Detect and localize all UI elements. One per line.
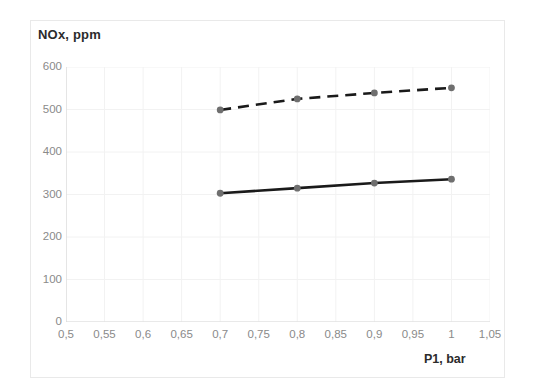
data-point-marker [371, 90, 378, 97]
x-tick-label: 1,05 [479, 328, 501, 340]
data-point-marker [448, 176, 455, 183]
x-tick-label: 0,55 [93, 328, 115, 340]
x-tick-label: 0,95 [402, 328, 424, 340]
x-tick-label: 0,7 [212, 328, 228, 340]
x-tick-label: 0,5 [58, 328, 74, 340]
x-axis-tick-labels: 0,50,550,60,650,70,750,80,850,90,9511,05 [0, 328, 538, 348]
x-tick-label: 0,9 [366, 328, 382, 340]
plot-area [66, 67, 490, 322]
x-tick-label: 0,8 [289, 328, 305, 340]
chart-container: NOx, ppm 6005004003002001000 0,50,550,60… [0, 0, 538, 392]
data-point-marker [217, 190, 224, 197]
y-tick-label: 300 [28, 189, 62, 200]
x-tick-label: 1 [448, 328, 454, 340]
y-tick-label: 600 [28, 61, 62, 72]
grid-lines [66, 67, 490, 322]
data-point-marker [448, 84, 455, 91]
data-point-marker [371, 180, 378, 187]
y-tick-label: 0 [28, 316, 62, 327]
x-tick-label: 0,85 [325, 328, 347, 340]
plot-svg [66, 67, 490, 322]
x-tick-label: 0,75 [248, 328, 270, 340]
x-axis-title: P1, bar [424, 352, 466, 366]
y-tick-label: 400 [28, 146, 62, 157]
data-point-marker [294, 185, 301, 192]
y-tick-label: 200 [28, 231, 62, 242]
x-tick-label: 0,65 [170, 328, 192, 340]
data-point-marker [217, 107, 224, 114]
y-tick-label: 100 [28, 274, 62, 285]
x-tick-label: 0,6 [135, 328, 151, 340]
y-tick-label: 500 [28, 104, 62, 115]
data-point-marker [294, 95, 301, 102]
